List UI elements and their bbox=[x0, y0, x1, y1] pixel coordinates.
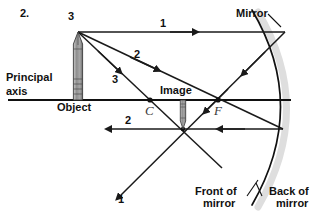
ray-3-incident-arrowhead bbox=[98, 51, 120, 72]
ray-1-incident-label: 1 bbox=[160, 18, 166, 29]
mirror-label-leader bbox=[268, 14, 281, 27]
ray-diagram-figure: 2. 3 1 2 3 2 1 Principal axis Object Ima… bbox=[0, 0, 317, 212]
principal-axis-label-line1: Principal bbox=[6, 72, 52, 83]
back-of-mirror-label-line2: mirror bbox=[276, 198, 308, 210]
ray-3-object-tip-number: 3 bbox=[68, 11, 74, 22]
principal-axis-label-line2: axis bbox=[6, 86, 27, 97]
problem-number-label: 2. bbox=[20, 8, 29, 19]
center-of-curvature-label: C bbox=[145, 104, 154, 117]
object-label: Object bbox=[57, 102, 91, 113]
back-of-mirror-label-line1: Back of bbox=[269, 186, 309, 198]
center-of-curvature-dot bbox=[147, 97, 152, 102]
image-pencil bbox=[180, 100, 185, 129]
ray-1-reflected-arrowhead-upper bbox=[243, 52, 265, 74]
mirror-shadow bbox=[258, 12, 287, 207]
mirror-label: Mirror bbox=[236, 8, 268, 19]
focal-point-label: F bbox=[214, 104, 222, 117]
ray-3-incident-label: 3 bbox=[112, 74, 118, 85]
focal-point-dot bbox=[215, 97, 220, 102]
ray-2-incident-label: 2 bbox=[134, 49, 140, 60]
ray-1-reflected-label: 1 bbox=[118, 194, 124, 205]
ray-diagram-canvas bbox=[0, 0, 317, 212]
front-of-mirror-label-line1: Front of bbox=[195, 186, 237, 198]
object-pencil bbox=[73, 32, 82, 100]
ray-2-reflected-label: 2 bbox=[125, 115, 131, 126]
front-of-mirror-leader bbox=[247, 180, 258, 196]
image-label: Image bbox=[160, 85, 192, 96]
front-of-mirror-label-line2: mirror bbox=[203, 198, 235, 210]
